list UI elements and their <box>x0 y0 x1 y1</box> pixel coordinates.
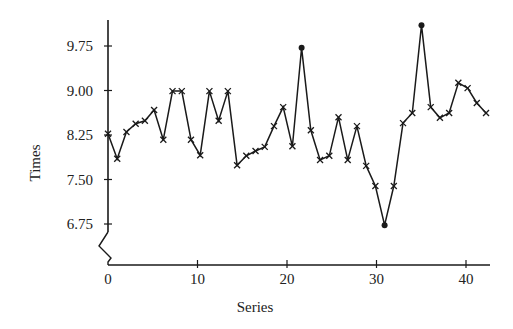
x-marker <box>437 115 443 121</box>
chart-canvas: 6.757.508.259.009.75010203040 Series Tim… <box>0 0 513 329</box>
y-tick-label: 6.75 <box>67 216 93 232</box>
data-markers <box>105 22 489 228</box>
x-marker <box>474 100 480 106</box>
y-tick-label: 7.50 <box>67 172 93 188</box>
x-tick-label: 20 <box>280 271 295 287</box>
x-marker <box>262 144 268 150</box>
y-tick-label: 9.75 <box>67 38 93 54</box>
y-tick-label: 9.00 <box>67 83 93 99</box>
axes: 6.757.508.259.009.75010203040 <box>67 20 490 287</box>
y-tick-label: 8.25 <box>67 127 93 143</box>
y-axis-break-icon <box>99 232 111 265</box>
x-tick-label: 30 <box>369 271 384 287</box>
x-marker <box>271 123 277 129</box>
highlight-dot-marker <box>418 22 424 28</box>
time-series-chart: 6.757.508.259.009.75010203040 Series Tim… <box>0 0 513 329</box>
highlight-dot-marker <box>299 45 305 51</box>
series-line <box>108 25 486 225</box>
y-axis-label: Times <box>27 144 43 181</box>
x-axis-label: Series <box>237 299 274 315</box>
x-marker <box>483 110 489 116</box>
x-marker <box>465 85 471 91</box>
x-marker <box>243 153 249 159</box>
highlight-dot-marker <box>382 222 388 228</box>
x-marker <box>253 148 259 154</box>
data-line <box>108 25 486 225</box>
x-tick-label: 10 <box>190 271 205 287</box>
x-tick-label: 0 <box>104 271 112 287</box>
x-tick-label: 40 <box>459 271 474 287</box>
